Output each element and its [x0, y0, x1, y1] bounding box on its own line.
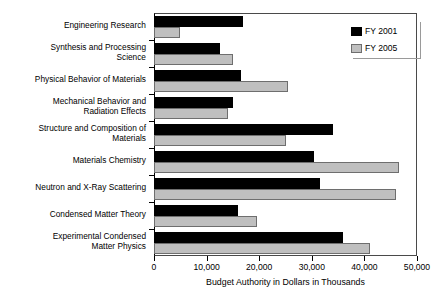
bar-fy2001	[154, 151, 314, 162]
bar-fy2001	[154, 205, 238, 216]
bar-fy2005	[154, 27, 180, 38]
category-label: Structure and Composition of Materials	[0, 124, 146, 143]
x-axis-tick	[364, 256, 365, 261]
category-axis-labels: Engineering ResearchSynthesis and Proces…	[0, 13, 150, 256]
category-label: Experimental Condensed Matter Physics	[0, 232, 146, 251]
x-axis-tick-label: 40,000	[351, 262, 377, 272]
y-axis-tick	[149, 229, 154, 230]
legend-swatch-icon	[351, 27, 362, 36]
bar-fy2005	[154, 189, 396, 200]
category-label: Condensed Matter Theory	[0, 210, 146, 220]
bar-fy2005	[154, 81, 288, 92]
y-axis-tick	[149, 40, 154, 41]
bar-chart: Engineering ResearchSynthesis and Proces…	[0, 0, 448, 300]
bar-fy2001	[154, 124, 333, 135]
x-axis-tick-label: 20,000	[246, 262, 272, 272]
bar-fy2005	[154, 108, 228, 119]
x-axis-tick	[207, 256, 208, 261]
bar-fy2001	[154, 178, 320, 189]
bar-fy2005	[154, 243, 370, 254]
x-axis-tick	[312, 256, 313, 261]
bar-fy2005	[154, 54, 233, 65]
category-label: Mechanical Behavior and Radiation Effect…	[0, 97, 146, 116]
x-axis-tick	[154, 256, 155, 261]
x-axis-tick	[259, 256, 260, 261]
category-label: Engineering Research	[0, 21, 146, 31]
bar-fy2001	[154, 16, 243, 27]
bar-fy2001	[154, 43, 220, 54]
x-axis-tick-label: 50,000	[404, 262, 430, 272]
bar-fy2005	[154, 162, 399, 173]
y-axis-tick	[149, 175, 154, 176]
y-axis-tick	[149, 67, 154, 68]
y-axis-tick	[149, 121, 154, 122]
x-axis-tick-label: 30,000	[299, 262, 325, 272]
bar-fy2005	[154, 216, 257, 227]
category-label: Physical Behavior of Materials	[0, 75, 146, 85]
bar-fy2001	[154, 232, 343, 243]
x-axis-tick-label: 10,000	[193, 262, 219, 272]
legend-label: FY 2005	[365, 43, 397, 53]
legend-item: FY 2005	[351, 43, 397, 53]
x-axis-tick	[417, 256, 418, 261]
y-axis-tick	[149, 202, 154, 203]
bar-fy2005	[154, 135, 286, 146]
x-axis-tick-label: 0	[152, 262, 157, 272]
legend-label: FY 2001	[365, 26, 397, 36]
legend: FY 2001FY 2005	[353, 22, 421, 59]
x-axis-title: Budget Authority in Dollars in Thousands	[154, 277, 417, 287]
legend-item: FY 2001	[351, 26, 397, 36]
legend-swatch-icon	[351, 44, 362, 53]
y-axis-tick	[149, 148, 154, 149]
category-label: Synthesis and Processing Science	[0, 43, 146, 62]
y-axis-tick	[149, 94, 154, 95]
category-label: Materials Chemistry	[0, 156, 146, 166]
bar-fy2001	[154, 97, 233, 108]
category-label: Neutron and X-Ray Scattering	[0, 183, 146, 193]
bar-fy2001	[154, 70, 241, 81]
